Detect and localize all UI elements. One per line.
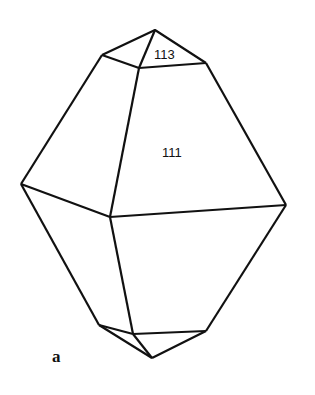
- figure-caption: a: [52, 347, 61, 366]
- crystal-diagram: 113 111 a: [0, 0, 315, 395]
- face-label-113: 113: [154, 47, 175, 62]
- face-label-111: 111: [162, 145, 182, 160]
- crystal-edges: [21, 30, 286, 358]
